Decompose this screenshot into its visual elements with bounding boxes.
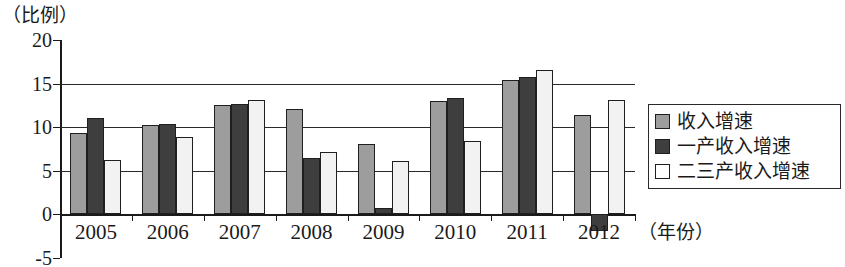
x-axis-caption: （年份） [638,219,714,245]
bar [303,158,320,214]
bar [358,144,375,214]
y-axis-caption: （比例） [2,0,78,27]
legend-item[interactable]: 一产收入增速 [655,134,835,159]
y-tick-label: 5 [6,161,52,181]
bar [574,115,591,214]
bar [519,77,536,214]
legend-item-label: 二三产收入增速 [677,162,810,181]
bar [502,80,519,214]
bar [214,105,231,214]
y-tick-label: 0 [6,204,52,224]
legend-item-label: 一产收入增速 [677,137,791,156]
chart-legend: 收入增速一产收入增速二三产收入增速 [648,104,841,189]
plot-area: 20151050-5 [60,40,635,214]
y-tick-label: 10 [6,117,52,137]
bar [608,100,625,214]
bar [70,133,87,214]
bar [536,70,553,214]
x-tick-label: 2009 [347,219,419,245]
y-tick-mark [53,258,60,259]
bar [142,125,159,214]
y-tick-mark [53,40,60,41]
bar [104,160,121,214]
x-tick-label: 2012 [563,219,635,245]
white-swatch-icon [655,164,670,179]
bars-group [60,40,635,214]
bar [447,98,464,214]
legend-item[interactable]: 二三产收入增速 [655,159,835,184]
y-tick-mark [53,127,60,128]
bar [464,141,481,214]
y-tick-label: 20 [6,30,52,50]
x-tick-label: 2011 [491,219,563,245]
x-tick-label: 2005 [60,219,132,245]
y-tick-label: -5 [6,248,52,267]
bar [176,137,193,214]
bar [375,208,392,214]
bar [430,101,447,214]
x-tick-mark [635,214,636,221]
bar [392,161,409,214]
y-tick-mark [53,171,60,172]
bar [248,100,265,214]
legend-item-label: 收入增速 [677,112,753,131]
gray-swatch-icon [655,114,670,129]
bar [87,118,104,214]
dark-swatch-icon [655,139,670,154]
x-tick-label: 2006 [132,219,204,245]
x-tick-label: 2007 [204,219,276,245]
bar [231,104,248,214]
bar [320,152,337,214]
bar-chart-figure: （比例） 20151050-5 200520062007200820092010… [0,0,845,267]
y-tick-mark [53,84,60,85]
y-tick-label: 15 [6,74,52,94]
x-tick-labels: 20052006200720082009201020112012 [60,219,635,247]
x-tick-label: 2010 [419,219,491,245]
bar [159,124,176,214]
bar [286,109,303,214]
y-tick-mark [53,214,60,215]
legend-item[interactable]: 收入增速 [655,109,835,134]
x-tick-label: 2008 [276,219,348,245]
